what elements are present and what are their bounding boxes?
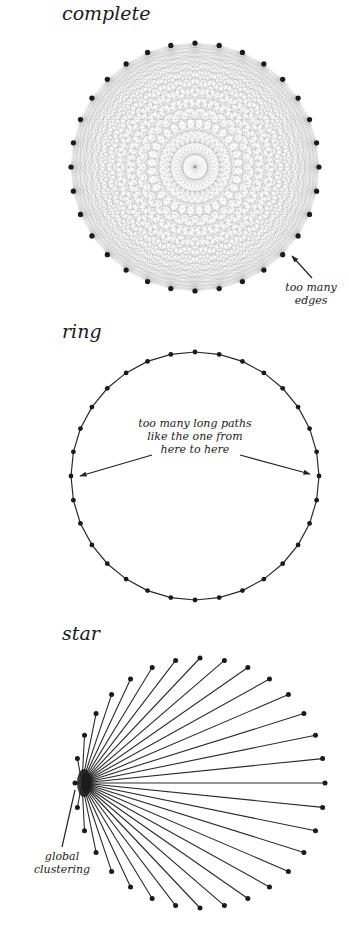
graph-node xyxy=(168,286,173,291)
graph-node xyxy=(109,692,114,697)
graph-node xyxy=(105,77,110,82)
graph-node xyxy=(307,521,312,526)
graph-node xyxy=(261,370,266,375)
ring-annotation-arrow-right xyxy=(240,455,310,474)
graph-node xyxy=(124,370,129,375)
graph-node xyxy=(314,498,319,503)
graph-node xyxy=(301,850,306,855)
graph-node xyxy=(124,268,129,273)
graph-node xyxy=(314,189,319,194)
graph-node xyxy=(323,781,328,786)
network-diagram xyxy=(0,0,349,930)
ring-graph xyxy=(69,350,322,603)
graph-node xyxy=(261,577,266,582)
graph-node xyxy=(296,405,301,410)
star-annotation-line-2: clustering xyxy=(22,863,102,876)
graph-node xyxy=(173,658,178,663)
graph-node xyxy=(73,781,78,786)
graph-node xyxy=(89,96,94,101)
graph-node xyxy=(82,733,87,738)
complete-graph xyxy=(68,40,321,293)
graph-node xyxy=(307,212,312,217)
graph-node xyxy=(280,561,285,566)
graph-node xyxy=(222,903,227,908)
complete-annotation: too many edges xyxy=(276,281,346,307)
graph-node xyxy=(267,677,272,682)
graph-node xyxy=(267,884,272,889)
graph-node xyxy=(78,212,83,217)
graph-node xyxy=(316,164,321,169)
graph-node xyxy=(240,359,245,364)
graph-node xyxy=(301,711,306,716)
graph-node xyxy=(240,50,245,55)
complete-annotation-line-1: too many xyxy=(276,281,346,294)
graph-node xyxy=(145,588,150,593)
graph-node xyxy=(75,805,80,810)
graph-node xyxy=(71,189,76,194)
graph-node xyxy=(198,906,203,911)
graph-node xyxy=(168,352,173,357)
graph-node xyxy=(317,474,322,479)
graph-node xyxy=(245,665,250,670)
graph-node xyxy=(314,140,319,145)
graph-node xyxy=(82,828,87,833)
ring-annotation-arrow-left xyxy=(80,455,152,476)
graph-node xyxy=(105,386,110,391)
graph-node xyxy=(94,711,99,716)
graph-node xyxy=(71,140,76,145)
complete-annotation-arrow xyxy=(292,256,312,278)
graph-node xyxy=(286,869,291,874)
graph-node xyxy=(217,286,222,291)
graph-node xyxy=(193,350,198,355)
graph-node xyxy=(286,692,291,697)
graph-node xyxy=(150,896,155,901)
graph-node xyxy=(105,252,110,257)
graph-node xyxy=(217,352,222,357)
graph-node xyxy=(89,233,94,238)
ring-annotation: too many long paths like the one from he… xyxy=(120,417,270,456)
graph-node xyxy=(313,733,318,738)
graph-node xyxy=(105,561,110,566)
ring-annotation-line-1: too many long paths xyxy=(120,417,270,430)
graph-node xyxy=(296,542,301,547)
graph-node xyxy=(217,43,222,48)
graph-node xyxy=(198,656,203,661)
graph-node xyxy=(168,595,173,600)
graph-node xyxy=(280,77,285,82)
graph-node xyxy=(240,279,245,284)
ring-annotation-line-2: like the one from xyxy=(120,430,270,443)
graph-node xyxy=(145,359,150,364)
graph-node xyxy=(75,756,80,761)
graph-node xyxy=(124,577,129,582)
graph-node xyxy=(261,61,266,66)
graph-node xyxy=(68,164,73,169)
graph-node xyxy=(173,903,178,908)
graph-node xyxy=(71,498,76,503)
graph-node xyxy=(320,805,325,810)
graph-node xyxy=(192,40,197,45)
graph-node xyxy=(193,598,198,603)
complete-title: complete xyxy=(62,2,150,24)
graph-node xyxy=(145,279,150,284)
graph-node xyxy=(222,658,227,663)
graph-node xyxy=(128,884,133,889)
graph-node xyxy=(320,756,325,761)
graph-node xyxy=(217,595,222,600)
graph-node xyxy=(280,386,285,391)
graph-node xyxy=(307,117,312,122)
graph-node xyxy=(109,869,114,874)
ring-annotation-line-3: here to here xyxy=(120,443,270,456)
graph-node xyxy=(124,61,129,66)
star-annotation: global clustering xyxy=(22,850,102,876)
ring-title: ring xyxy=(62,320,102,342)
graph-node xyxy=(192,288,197,293)
complete-annotation-line-2: edges xyxy=(276,294,346,307)
graph-node xyxy=(128,677,133,682)
graph-node xyxy=(150,665,155,670)
graph-node xyxy=(280,252,285,257)
graph-node xyxy=(296,233,301,238)
star-title: star xyxy=(62,622,100,644)
graph-node xyxy=(314,449,319,454)
star-annotation-line-1: global xyxy=(22,850,102,863)
graph-node xyxy=(313,828,318,833)
